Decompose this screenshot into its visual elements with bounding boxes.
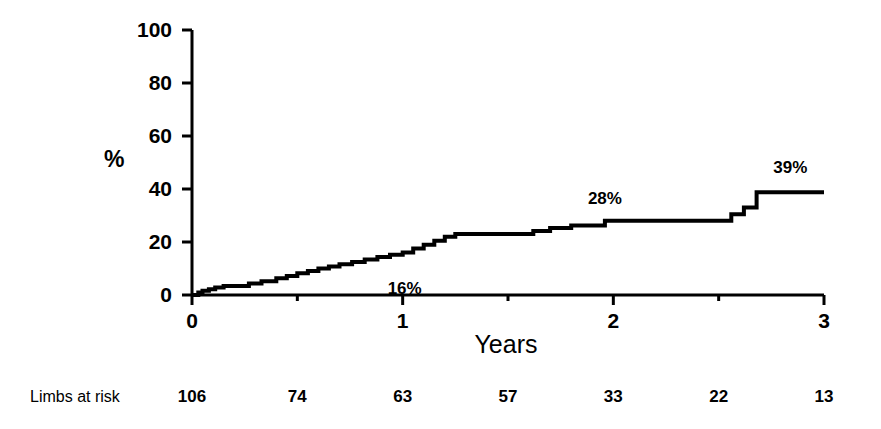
x-tick-label: 0 [172, 309, 212, 333]
risk-table-value: 74 [275, 387, 319, 407]
annotation-39-percent: 39% [760, 158, 820, 178]
risk-table-value: 63 [381, 387, 425, 407]
y-tick-label: 40 [112, 177, 172, 201]
risk-table-title: Limbs at risk [30, 388, 120, 406]
survival-curve-figure: 020406080100 0123 % Years 16%28%39% Limb… [0, 0, 881, 429]
risk-table-value: 22 [697, 387, 741, 407]
y-tick-label: 20 [112, 230, 172, 254]
annotation-16-percent: 16% [375, 279, 435, 299]
y-tick-label: 80 [112, 71, 172, 95]
survival-step-curve [192, 192, 824, 295]
risk-table-value: 106 [170, 387, 214, 407]
chart-canvas [0, 0, 881, 429]
x-tick-label: 3 [804, 309, 844, 333]
x-axis-label: Years [406, 330, 606, 359]
y-tick-label: 0 [112, 283, 172, 307]
risk-table-value: 33 [591, 387, 635, 407]
y-axis-label: % [104, 146, 124, 173]
risk-table-value: 57 [486, 387, 530, 407]
risk-table-value: 13 [802, 387, 846, 407]
y-tick-label: 60 [112, 124, 172, 148]
y-tick-label: 100 [112, 18, 172, 42]
annotation-28-percent: 28% [575, 189, 635, 209]
